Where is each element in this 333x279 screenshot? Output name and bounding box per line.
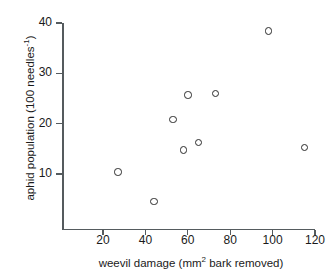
y-axis-title: aphid population (100 needles-1) [16, 0, 38, 238]
x-axis-tick-label: 100 [256, 233, 290, 247]
x-axis-tick-label: 80 [213, 233, 247, 247]
scatter-plot-figure: 10203040 20406080100120 aphid population… [0, 0, 333, 279]
x-axis-title: weevil damage (mm2 bark removed) [62, 255, 320, 269]
x-axis-tick-label: 60 [171, 233, 205, 247]
plot-area: 10203040 20406080100120 [0, 0, 333, 279]
data-point [169, 116, 176, 123]
y-axis-tick [56, 123, 62, 124]
x-axis-tick-label: 20 [86, 233, 120, 247]
x-axis-tick-label: 40 [128, 233, 162, 247]
data-point [195, 139, 202, 146]
data-point [301, 144, 308, 151]
x-axis-title-superscript: 2 [202, 255, 206, 264]
data-point [114, 168, 121, 175]
y-axis-title-superscript: -1 [22, 39, 31, 46]
data-point [212, 90, 219, 97]
data-point [150, 198, 157, 205]
data-point [265, 27, 272, 34]
y-axis-line [62, 23, 64, 230]
x-axis-tick-label: 120 [298, 233, 332, 247]
y-axis-tick [56, 173, 62, 174]
y-axis-tick [56, 22, 62, 23]
data-point [184, 91, 191, 98]
y-axis-tick [56, 73, 62, 74]
data-point [180, 146, 187, 153]
x-axis-line [62, 229, 315, 231]
